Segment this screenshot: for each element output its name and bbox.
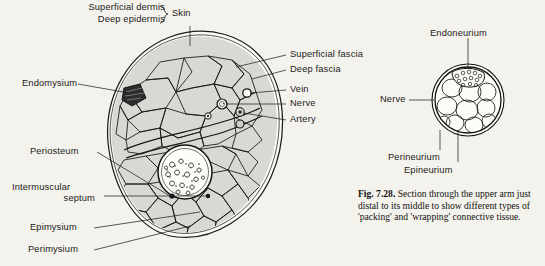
vein-lumen: [243, 89, 251, 97]
nerve-fascicle-core: [219, 101, 224, 106]
label-septum: septum: [12, 193, 95, 204]
label-vein: Vein: [290, 84, 309, 95]
artery-lumen: [238, 110, 242, 114]
vessel-secondary: [236, 120, 244, 128]
label-periosteum: Periosteum: [30, 146, 79, 157]
label-perimysium: Perimysium: [28, 244, 78, 255]
label-deep-epidermis: Deep epidermis: [62, 14, 165, 25]
label-intermuscular: Intermuscular: [12, 182, 70, 193]
anatomical-figure-svg: [0, 0, 545, 266]
main-cross-section: [105, 30, 290, 245]
figure-number: Fig. 7.28.: [358, 188, 395, 199]
figure-caption: Fig. 7.28. Section through the upper arm…: [358, 188, 544, 223]
label-endoneurium: Endoneurium: [430, 28, 487, 39]
label-artery: Artery: [290, 114, 316, 125]
label-epimysium: Epimysium: [30, 222, 77, 233]
vessel-small-lumen: [207, 115, 209, 117]
label-perineurium: Perineurium: [388, 152, 440, 163]
intermuscular-septum-marker: [206, 194, 210, 198]
label-deep-fascia: Deep fascia: [290, 64, 341, 75]
leader-perimysium: [94, 226, 190, 250]
label-superficial-fascia: Superficial fascia: [290, 49, 363, 60]
nerve-inset-diagram: [409, 38, 504, 162]
figure-stage: Superficial dermis Deep epidermis Skin E…: [0, 0, 545, 266]
label-epineurium: Epineurium: [404, 165, 453, 176]
label-skin: Skin: [172, 8, 191, 19]
label-endomysium: Endomysium: [22, 78, 77, 89]
label-nerve: Nerve: [290, 98, 316, 109]
label-superficial-dermis: Superficial dermis: [62, 2, 165, 13]
label-nerve-inset: Nerve: [380, 94, 406, 105]
